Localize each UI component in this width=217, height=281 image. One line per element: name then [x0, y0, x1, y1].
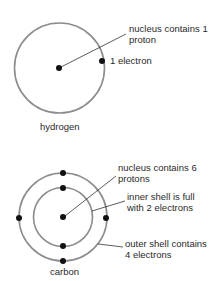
carbon-outer-electron-right — [103, 215, 109, 221]
carbon-caption: carbon — [50, 267, 79, 278]
hydrogen-electron — [99, 58, 105, 64]
carbon-inner-leader — [92, 201, 125, 211]
carbon-nucleus-label-line1: nucleus contains 6 — [118, 163, 197, 174]
hydrogen-nucleus — [56, 65, 62, 71]
hydrogen-electron-label: 1 electron — [110, 56, 152, 67]
carbon-atom — [16, 170, 125, 264]
carbon-nucleus — [60, 214, 66, 220]
hydrogen-atom — [15, 23, 127, 113]
carbon-outer-electron-bottom — [60, 258, 66, 264]
carbon-nucleus-label-line2: protons — [118, 174, 197, 185]
carbon-inner-shell-label: inner shell is full with 2 electrons — [127, 192, 195, 213]
hydrogen-nucleus-label-line2: proton — [129, 35, 208, 46]
hydrogen-nucleus-label-line1: nucleus contains 1 — [129, 24, 208, 35]
carbon-outer-electron-left — [16, 215, 22, 221]
carbon-inner-label-line2: with 2 electrons — [127, 203, 195, 214]
carbon-inner-electron-bottom — [60, 243, 66, 249]
carbon-outer-electron-top — [60, 170, 66, 176]
carbon-inner-label-line1: inner shell is full — [127, 192, 195, 203]
carbon-nucleus-label: nucleus contains 6 protons — [118, 163, 197, 184]
carbon-outer-shell-label: outer shell contains 4 electrons — [125, 239, 207, 260]
hydrogen-caption: hydrogen — [40, 122, 80, 133]
carbon-outer-label-line1: outer shell contains — [125, 239, 207, 250]
carbon-outer-leader — [98, 244, 123, 247]
carbon-outer-label-line2: 4 electrons — [125, 250, 207, 261]
carbon-inner-electron-top — [60, 185, 66, 191]
hydrogen-nucleus-label: nucleus contains 1 proton — [129, 24, 208, 45]
